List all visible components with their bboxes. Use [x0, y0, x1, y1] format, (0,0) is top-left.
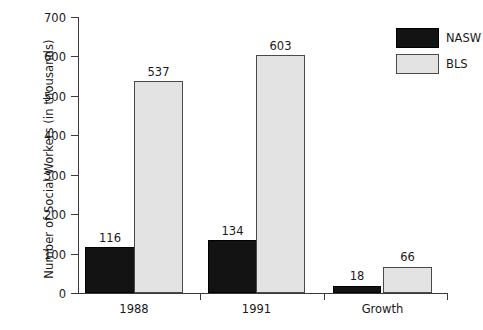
y-tick-label-0: 0 [0, 287, 66, 301]
legend-swatch-bls [396, 54, 439, 74]
x-category-label-1988: 1988 [85, 302, 183, 316]
y-tick-0 [71, 293, 79, 294]
y-tick-label-300: 300 [0, 169, 66, 183]
x-tick-separator-3 [447, 294, 448, 300]
x-axis-line [78, 293, 448, 294]
x-tick-separator-1 [200, 294, 201, 300]
bar-value-bls-1991: 603 [256, 39, 305, 53]
y-axis-label: Number of Social Workers (in thousands) [42, 34, 56, 284]
x-category-label-1991: 1991 [208, 302, 305, 316]
y-tick-100 [71, 254, 79, 255]
bar-chart: Number of Social Workers (in thousands) … [0, 0, 483, 330]
bar-value-nasw-growth: 18 [333, 269, 381, 283]
bar-nasw-1991 [208, 240, 257, 293]
y-tick-label-100: 100 [0, 248, 66, 262]
bar-nasw-growth [333, 286, 381, 293]
y-tick-500 [71, 96, 79, 97]
y-tick-label-400: 400 [0, 129, 66, 143]
bar-bls-1991 [256, 55, 305, 293]
y-tick-600 [71, 56, 79, 57]
y-tick-700 [71, 17, 79, 18]
y-tick-400 [71, 135, 79, 136]
y-tick-300 [71, 175, 79, 176]
y-tick-label-600: 600 [0, 50, 66, 64]
bar-bls-1988 [134, 81, 183, 293]
bar-value-nasw-1991: 134 [208, 224, 257, 238]
bar-nasw-1988 [85, 247, 135, 293]
bar-value-nasw-1988: 116 [85, 231, 135, 245]
legend-swatch-nasw [396, 28, 439, 48]
y-tick-label-700: 700 [0, 11, 66, 25]
x-tick-separator-2 [324, 294, 325, 300]
bar-value-bls-1988: 537 [134, 65, 183, 79]
x-category-label-growth: Growth [333, 302, 432, 316]
y-axis-line [78, 17, 79, 294]
bar-bls-growth [383, 267, 432, 293]
y-tick-label-200: 200 [0, 208, 66, 222]
y-tick-label-500: 500 [0, 90, 66, 104]
y-tick-200 [71, 214, 79, 215]
legend-label-nasw: NASW [446, 31, 481, 45]
legend-label-bls: BLS [446, 57, 468, 71]
bar-value-bls-growth: 66 [383, 250, 432, 264]
